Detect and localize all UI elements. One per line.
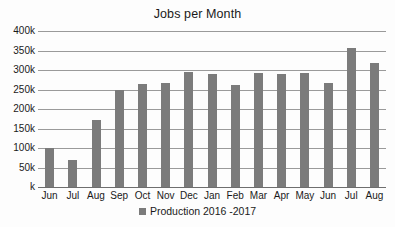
bars-layer: [38, 31, 386, 187]
y-axis-tick-label: 300k: [1, 65, 35, 75]
x-axis-tick-label: Mar: [247, 189, 270, 203]
x-axis-tick-label: Jul: [61, 189, 84, 203]
x-axis-tick-label: Nov: [154, 189, 177, 203]
x-axis-tick-label: Feb: [224, 189, 247, 203]
x-axis-tick-label: Jul: [340, 189, 363, 203]
y-axis-tick-label: k: [1, 182, 35, 192]
legend-label: Production 2016 -2017: [150, 205, 256, 217]
x-axis-tick-label: Dec: [177, 189, 200, 203]
bar-slot: [38, 31, 61, 187]
bar[interactable]: [277, 74, 286, 187]
y-axis-tick-label: 50k: [1, 163, 35, 173]
x-axis-tick-label: Jun: [38, 189, 61, 203]
x-axis-tick-label: May: [293, 189, 316, 203]
bar-slot: [363, 31, 386, 187]
bar[interactable]: [115, 90, 124, 187]
bar[interactable]: [92, 120, 101, 187]
y-axis-tick-label: 150k: [1, 124, 35, 134]
x-axis-tick-label: Aug: [363, 189, 386, 203]
y-axis-tick-label: 400k: [1, 26, 35, 36]
chart-title: Jobs per Month: [0, 7, 395, 21]
bar-slot: [270, 31, 293, 187]
bar[interactable]: [184, 72, 193, 187]
bar-slot: [224, 31, 247, 187]
bar-slot: [340, 31, 363, 187]
bar[interactable]: [347, 48, 356, 187]
chart-container: Jobs per Month 400k350k300k250k200k150k1…: [0, 0, 395, 227]
y-axis-tick-label: 100k: [1, 143, 35, 153]
bar-slot: [131, 31, 154, 187]
bar-slot: [200, 31, 223, 187]
bar[interactable]: [254, 73, 263, 187]
x-axis-tick-label: Jan: [200, 189, 223, 203]
bar[interactable]: [370, 63, 379, 187]
x-axis-tick-label: Aug: [84, 189, 107, 203]
bar[interactable]: [161, 83, 170, 187]
bar-slot: [84, 31, 107, 187]
bar-slot: [247, 31, 270, 187]
bar[interactable]: [45, 148, 54, 187]
bar-slot: [108, 31, 131, 187]
bar[interactable]: [208, 74, 217, 187]
bar-slot: [316, 31, 339, 187]
bar-slot: [154, 31, 177, 187]
bar[interactable]: [68, 160, 77, 187]
chart-legend: Production 2016 -2017: [0, 205, 395, 217]
y-axis-tick-label: 350k: [1, 46, 35, 56]
bar[interactable]: [138, 84, 147, 187]
bar-slot: [177, 31, 200, 187]
y-axis-tick-label: 200k: [1, 104, 35, 114]
y-axis-tick-label: 250k: [1, 85, 35, 95]
bar-slot: [293, 31, 316, 187]
x-axis-tick-label: Oct: [131, 189, 154, 203]
legend-swatch-icon: [139, 208, 146, 215]
bar[interactable]: [324, 83, 333, 187]
x-axis-tick-label: Jun: [316, 189, 339, 203]
bar[interactable]: [300, 73, 309, 187]
bar-slot: [61, 31, 84, 187]
y-axis: 400k350k300k250k200k150k100k50kk: [0, 31, 35, 188]
x-axis-tick-label: Apr: [270, 189, 293, 203]
bar[interactable]: [231, 85, 240, 187]
x-axis-tick-label: Sep: [108, 189, 131, 203]
x-axis: JunJulAugSepOctNovDecJanFebMarAprMayJunJ…: [38, 189, 386, 203]
